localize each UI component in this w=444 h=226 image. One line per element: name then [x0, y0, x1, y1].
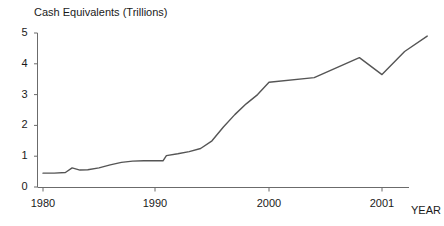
x-axis-tick-label: 2000 — [249, 198, 289, 209]
chart-axes — [38, 33, 410, 188]
x-axis-tick-label: 1980 — [23, 198, 63, 209]
y-axis-tick-label: 4 — [14, 58, 28, 69]
y-axis-tick-label: 5 — [14, 27, 28, 38]
y-axis-tick-label: 1 — [14, 150, 28, 161]
data-line-cash-equivalents — [43, 36, 427, 173]
x-axis-title: YEAR — [411, 205, 441, 216]
y-axis-tick-label: 3 — [14, 89, 28, 100]
x-axis-ticks — [43, 188, 382, 192]
y-axis-tick-label: 2 — [14, 119, 28, 130]
y-axis-tick-label: 0 — [14, 181, 28, 192]
y-axis-ticks — [34, 33, 38, 187]
chart-container: Cash Equivalents (Trillions) YEAR 012345… — [0, 0, 444, 226]
line-chart-plot — [0, 0, 444, 226]
x-axis-tick-label: 2001 — [362, 198, 402, 209]
x-axis-tick-label: 1990 — [135, 198, 175, 209]
